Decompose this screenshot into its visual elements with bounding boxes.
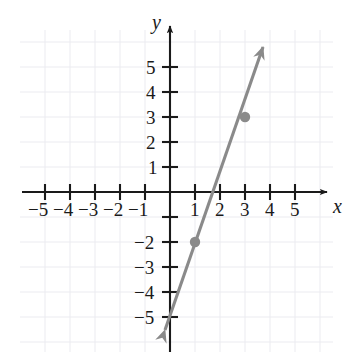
y-tick-label-5: 5 [146, 58, 156, 77]
y-tick-label-neg3: −3 [134, 258, 154, 277]
coordinate-plane-svg [0, 0, 354, 361]
x-tick-label-neg3: −3 [78, 200, 98, 219]
x-tick-label-4: 4 [265, 200, 275, 219]
x-tick-label-1: 1 [190, 200, 200, 219]
x-axis [22, 184, 327, 200]
x-tick-label-5: 5 [290, 200, 300, 219]
graph-figure: y x 5 4 3 2 1 −2 −3 −4 −5 −5 −4 −3 −2 −1… [0, 0, 354, 361]
x-axis-label: x [333, 196, 342, 216]
y-axis-label: y [152, 12, 161, 32]
x-tick-label-neg5: −5 [28, 200, 48, 219]
x-tick-label-3: 3 [240, 200, 250, 219]
y-tick-label-neg4: −4 [134, 283, 154, 302]
x-tick-label-2: 2 [215, 200, 225, 219]
y-tick-label-1: 1 [148, 158, 158, 177]
x-tick-label-neg1: −1 [128, 200, 148, 219]
data-point [190, 237, 200, 247]
y-tick-label-3: 3 [146, 108, 156, 127]
x-tick-label-neg2: −2 [103, 200, 123, 219]
y-tick-label-4: 4 [146, 83, 156, 102]
plotted-line [165, 47, 263, 330]
data-point [240, 112, 250, 122]
y-tick-label-2: 2 [146, 133, 156, 152]
x-tick-label-neg4: −4 [53, 200, 73, 219]
y-tick-label-neg5: −5 [134, 308, 154, 327]
y-tick-label-neg2: −2 [134, 233, 154, 252]
